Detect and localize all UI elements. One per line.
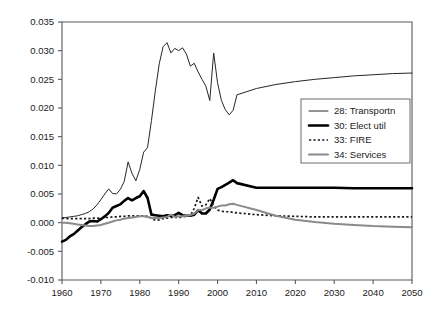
x-axis-tick-labels: 1960197019801990200020102020203020402050 xyxy=(51,287,422,298)
y-tick-label: -0.010 xyxy=(27,274,54,285)
x-tick-label: 1990 xyxy=(168,287,189,298)
chart-canvas: 0.0350.0300.0250.0200.0150.0100.0050.000… xyxy=(0,0,433,312)
x-tick-label: 1960 xyxy=(51,287,72,298)
x-tick-label: 1970 xyxy=(90,287,111,298)
legend-label-transportn: 28: Transportn xyxy=(334,105,395,116)
legend-label-electutil: 30: Elect util xyxy=(334,120,386,131)
x-tick-label: 1980 xyxy=(129,287,150,298)
y-tick-label: 0.010 xyxy=(30,160,54,171)
y-tick-label: 0.030 xyxy=(30,45,54,56)
x-tick-label: 2010 xyxy=(246,287,267,298)
line-chart: 0.0350.0300.0250.0200.0150.0100.0050.000… xyxy=(0,0,433,312)
legend-label-fire: 33: FIRE xyxy=(334,134,372,145)
x-tick-label: 2050 xyxy=(401,287,422,298)
y-tick-label: -0.005 xyxy=(27,246,54,257)
legend-label-services: 34: Services xyxy=(334,149,387,160)
x-tick-label: 2030 xyxy=(324,287,345,298)
y-tick-label: 0.025 xyxy=(30,74,54,85)
series-line-fire xyxy=(62,197,412,220)
y-axis-tick-labels: 0.0350.0300.0250.0200.0150.0100.0050.000… xyxy=(27,16,54,285)
x-tick-label: 2000 xyxy=(207,287,228,298)
chart-legend: 28: Transportn30: Elect util33: FIRE34: … xyxy=(301,99,410,163)
y-tick-label: 0.005 xyxy=(30,188,54,199)
x-tick-label: 2040 xyxy=(363,287,384,298)
y-tick-label: 0.020 xyxy=(30,102,54,113)
y-tick-label: 0.000 xyxy=(30,217,54,228)
y-tick-label: 0.035 xyxy=(30,16,54,27)
y-tick-label: 0.015 xyxy=(30,131,54,142)
x-tick-label: 2020 xyxy=(285,287,306,298)
series-line-electutil xyxy=(62,180,412,241)
